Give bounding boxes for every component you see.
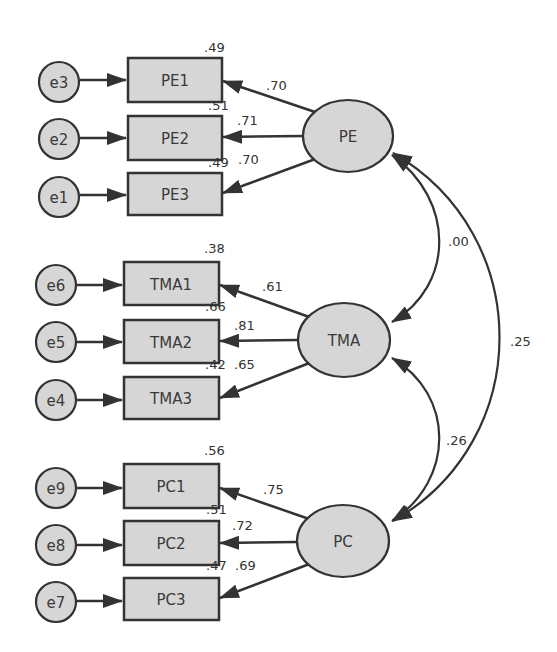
- covariance-arc-tma-pc: [392, 358, 439, 521]
- indicator-box-pc3: PC3: [124, 578, 219, 620]
- indicator-box-tma3: TMA3: [124, 377, 219, 419]
- error-node-e3: e3: [39, 62, 79, 102]
- svg-text:PE3: PE3: [161, 186, 189, 204]
- r2-label-pe3: .49: [208, 155, 229, 170]
- error-node-e4: e4: [36, 380, 76, 420]
- covariance-arc-pe-pc: [393, 153, 500, 521]
- indicator-box-pc2: PC2: [124, 521, 219, 565]
- indicator-box-pe2: PE2: [128, 116, 222, 160]
- svg-text:TMA2: TMA2: [149, 334, 192, 352]
- latent-factor-tma: TMA: [298, 303, 390, 377]
- error-node-e8: e8: [36, 525, 76, 565]
- r2-label-pc3: .47: [206, 558, 227, 573]
- loading-label-pc2: .72: [232, 518, 253, 533]
- error-node-e2: e2: [39, 119, 79, 159]
- svg-text:e5: e5: [47, 334, 66, 352]
- svg-text:PC3: PC3: [156, 591, 185, 609]
- loading-label-pe2: .71: [237, 113, 258, 128]
- r2-label-tma1: .38: [204, 241, 225, 256]
- covariance-label-tma-pc: .26: [446, 433, 467, 448]
- indicator-box-pe3: PE3: [128, 173, 222, 215]
- error-node-e5: e5: [36, 322, 76, 362]
- loading-label-tma1: .61: [262, 279, 283, 294]
- loading-path-tma2: [220, 340, 298, 341]
- svg-text:e7: e7: [47, 594, 66, 612]
- svg-text:TMA3: TMA3: [149, 390, 192, 408]
- r2-label-pe2: .51: [208, 98, 229, 113]
- covariance-label-pe-pc: .25: [510, 334, 531, 349]
- error-node-e9: e9: [36, 468, 76, 508]
- r2-label-pc1: .56: [204, 443, 225, 458]
- loading-label-tma3: .65: [234, 357, 255, 372]
- covariance-label-pe-tma: .00: [448, 234, 469, 249]
- svg-text:PC2: PC2: [156, 535, 185, 553]
- svg-text:e8: e8: [47, 537, 66, 555]
- svg-text:PE2: PE2: [161, 130, 189, 148]
- svg-text:TMA: TMA: [327, 332, 361, 350]
- error-node-e7: e7: [36, 582, 76, 622]
- svg-text:e1: e1: [50, 189, 69, 207]
- svg-text:e9: e9: [47, 480, 66, 498]
- r2-label-pc2: .51: [206, 502, 227, 517]
- r2-label-pe1: .49: [204, 40, 225, 55]
- covariance-arc-pe-tma: [392, 155, 439, 322]
- svg-text:PE: PE: [339, 128, 358, 146]
- svg-text:PE1: PE1: [161, 72, 189, 90]
- svg-text:e4: e4: [47, 392, 66, 410]
- loading-path-pc3: [220, 563, 312, 598]
- svg-text:e3: e3: [50, 74, 69, 92]
- latent-factor-pc: PC: [297, 505, 389, 577]
- svg-text:PC1: PC1: [156, 478, 185, 496]
- r2-label-tma2: .66: [205, 299, 226, 314]
- svg-text:TMA1: TMA1: [149, 276, 192, 294]
- loading-label-pc1: .75: [263, 482, 284, 497]
- svg-text:PC: PC: [333, 533, 353, 551]
- svg-text:e2: e2: [50, 131, 69, 149]
- r2-label-tma3: .42: [205, 357, 226, 372]
- loading-label-pe3: .70: [238, 152, 259, 167]
- loading-label-pc3: .69: [235, 558, 256, 573]
- loading-path-pe2: [223, 136, 304, 137]
- sem-path-diagram: e3 e2 e1 PE1 PE2 PE3 .49 .51 .49 .70 .71…: [0, 0, 557, 652]
- indicator-box-pc1: PC1: [124, 464, 219, 508]
- loading-label-pe1: .70: [266, 78, 287, 93]
- error-node-e1: e1: [39, 177, 79, 217]
- error-node-e6: e6: [36, 265, 76, 305]
- latent-factor-pe: PE: [303, 100, 393, 172]
- loading-path-pc2: [220, 542, 297, 543]
- svg-text:e6: e6: [47, 277, 66, 295]
- loading-label-tma2: .81: [234, 318, 255, 333]
- indicator-box-pe1: PE1: [128, 58, 222, 102]
